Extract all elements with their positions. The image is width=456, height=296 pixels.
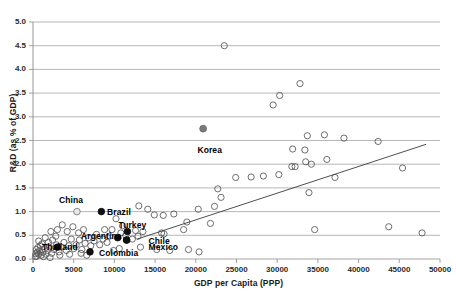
- data-point: [185, 246, 191, 252]
- highlighted-point-china: [74, 208, 81, 215]
- annotation-label-colombia: Colombia: [99, 248, 139, 258]
- data-point: [304, 133, 310, 139]
- data-point: [260, 173, 266, 179]
- data-point: [78, 250, 84, 256]
- x-tick-label: 40000: [339, 265, 379, 274]
- annotation-label-thailand: Thailand: [42, 242, 78, 252]
- y-tick-label: 4.0: [0, 64, 26, 73]
- data-point: [47, 254, 53, 260]
- data-point: [386, 224, 392, 230]
- y-tick-label: 5.0: [0, 17, 26, 26]
- data-points: [32, 43, 425, 261]
- highlighted-point-korea: [200, 125, 207, 132]
- data-point: [270, 102, 276, 108]
- data-point: [375, 138, 381, 144]
- x-tick-label: 35000: [298, 265, 338, 274]
- trend-line: [137, 144, 426, 239]
- data-point: [324, 156, 330, 162]
- data-point: [207, 220, 213, 226]
- highlighted-point-colombia: [87, 249, 94, 256]
- data-point: [180, 227, 186, 233]
- data-point: [151, 212, 157, 218]
- data-point: [67, 251, 73, 257]
- data-point: [88, 243, 94, 249]
- data-point: [215, 186, 221, 192]
- x-tick-label: 50000: [420, 265, 456, 274]
- data-point: [399, 165, 405, 171]
- x-axis-title: GDP per Capita (PPP): [0, 278, 451, 288]
- annotation-label-turkey: Turkey: [119, 220, 147, 230]
- data-point: [306, 190, 312, 196]
- x-tick-marks: [29, 22, 440, 263]
- data-point: [276, 172, 282, 178]
- data-point: [233, 174, 239, 180]
- data-point: [160, 212, 166, 218]
- x-tick-label: 45000: [379, 265, 419, 274]
- gridlines: [33, 22, 440, 259]
- data-point: [97, 242, 103, 248]
- y-tick-label: 4.5: [0, 41, 26, 50]
- x-tick-label: 30000: [257, 265, 297, 274]
- trend-line-path: [137, 144, 426, 239]
- x-tick-label: 25000: [217, 265, 257, 274]
- data-point: [48, 228, 54, 234]
- highlighted-point-brazil: [98, 208, 105, 215]
- data-point: [54, 227, 60, 233]
- y-tick-label: 0.0: [0, 254, 26, 263]
- data-point: [290, 146, 296, 152]
- data-point: [248, 174, 254, 180]
- y-axis-title: R&D (as % of GDP): [8, 78, 18, 188]
- data-point: [59, 222, 65, 228]
- annotation-label-argentina: Argentina: [81, 231, 122, 241]
- data-point: [321, 132, 327, 138]
- annotation-label-china: China: [59, 195, 83, 205]
- data-point: [136, 203, 142, 209]
- x-tick-label: 10000: [94, 265, 134, 274]
- data-point: [218, 194, 224, 200]
- annotation-label-mexico: Mexico: [149, 242, 178, 252]
- data-point: [64, 228, 70, 234]
- y-tick-label: 0.5: [0, 230, 26, 239]
- y-tick-label: 1.0: [0, 207, 26, 216]
- x-tick-label: 15000: [135, 265, 175, 274]
- data-point: [196, 249, 202, 255]
- data-point: [82, 240, 88, 246]
- annotation-label-korea: Korea: [197, 145, 222, 155]
- x-tick-label: 20000: [176, 265, 216, 274]
- x-tick-label: 5000: [54, 265, 94, 274]
- annotation-label-brazil: Brazil: [107, 207, 131, 217]
- data-point: [302, 147, 308, 153]
- data-point: [53, 233, 59, 239]
- data-point: [312, 227, 318, 233]
- data-point: [211, 203, 217, 209]
- data-point: [297, 81, 303, 87]
- x-tick-label: 0: [13, 265, 53, 274]
- data-point: [70, 224, 76, 230]
- highlighted-point-mexico: [123, 237, 130, 244]
